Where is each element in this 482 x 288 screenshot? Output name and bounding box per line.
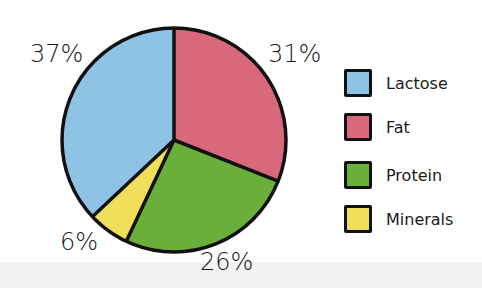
label-lactose: 37%	[30, 40, 83, 68]
legend-item-fat: Fat	[344, 112, 410, 142]
swatch-fat	[344, 113, 372, 141]
label-fat: 31%	[268, 40, 321, 68]
legend-label: Lactose	[386, 74, 448, 93]
legend-label: Protein	[386, 166, 442, 185]
label-protein: 26%	[200, 248, 253, 276]
swatch-minerals	[344, 205, 372, 233]
swatch-lactose	[344, 69, 372, 97]
swatch-protein	[344, 161, 372, 189]
legend-item-protein: Protein	[344, 160, 442, 190]
legend-item-minerals: Minerals	[344, 204, 453, 234]
legend-label: Fat	[386, 118, 410, 137]
legend-item-lactose: Lactose	[344, 68, 448, 98]
label-minerals: 6%	[60, 228, 98, 256]
legend-label: Minerals	[386, 210, 453, 229]
